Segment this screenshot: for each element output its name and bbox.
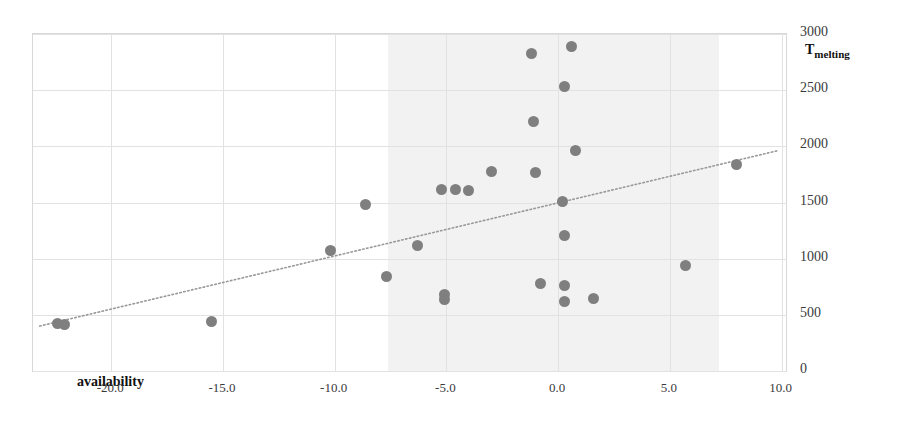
x-tick-label: 5.0 [639, 380, 699, 396]
data-point [436, 184, 447, 195]
data-point [463, 185, 474, 196]
data-point [486, 166, 497, 177]
data-point [439, 294, 450, 305]
y-tick-label: 1000 [800, 249, 828, 265]
y-tick-label: 500 [800, 305, 821, 321]
y-tick-label: 0 [800, 361, 807, 377]
data-point [566, 41, 577, 52]
plot-area: availability [32, 33, 787, 372]
x-tick-label: 10.0 [751, 380, 811, 396]
data-point [325, 245, 336, 256]
x-tick-label: 0.0 [527, 380, 587, 396]
y-tick-label: 2500 [800, 80, 828, 96]
x-tick-label: -15.0 [192, 380, 252, 396]
x-tick-label: -20.0 [80, 380, 140, 396]
y-axis-title: Tmelting [805, 42, 850, 60]
data-point [412, 240, 423, 251]
data-point [530, 167, 541, 178]
y-gridline [33, 371, 786, 372]
y-axis-title-base: T [805, 42, 814, 57]
scatter-chart-root: availability Tmelting -20.0-15.0-10.0-5.… [0, 0, 904, 428]
data-point [528, 116, 539, 127]
data-point [526, 48, 537, 59]
x-tick-label: -5.0 [415, 380, 475, 396]
trendline [33, 34, 786, 371]
data-point [559, 81, 570, 92]
data-point [559, 280, 570, 291]
y-axis-title-subscript: melting [814, 48, 849, 60]
data-point [450, 184, 461, 195]
x-tick-label: -10.0 [304, 380, 364, 396]
y-tick-label: 3000 [800, 24, 828, 40]
data-point [381, 271, 392, 282]
y-tick-label: 1500 [800, 193, 828, 209]
y-tick-label: 2000 [800, 136, 828, 152]
